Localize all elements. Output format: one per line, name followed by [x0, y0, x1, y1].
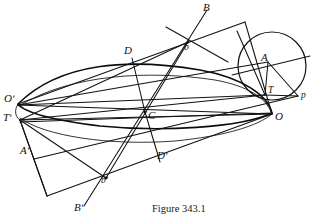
label-A-prime: Aʹ	[20, 145, 29, 156]
label-b: b	[184, 43, 189, 53]
label-B: B	[203, 2, 210, 13]
label-O-prime: Oʹ	[4, 93, 14, 104]
label-b-prime: bʹ	[101, 176, 108, 186]
leg-Tprime-corner	[20, 120, 47, 196]
label-T-prime: Tʹ	[3, 112, 11, 123]
label-D: D	[124, 45, 132, 56]
line-Tprime-bprime	[20, 120, 106, 178]
figure-container: B b D A T p O C Oʹ Tʹ Aʹ Dʹ bʹ Bʹ Figure…	[0, 0, 320, 215]
label-C: C	[148, 110, 155, 121]
center-point-C	[143, 110, 146, 113]
label-p: p	[301, 91, 306, 101]
tangent-line-top	[18, 22, 245, 104]
label-T: T	[268, 86, 273, 96]
geometric-diagram	[0, 0, 320, 215]
label-O: O	[275, 111, 283, 122]
tangent-at-b	[166, 27, 228, 62]
label-D-prime: Dʹ	[157, 150, 167, 161]
figure-caption: Figure 343.1	[152, 203, 206, 214]
label-A: A	[261, 52, 268, 63]
label-B-prime: Bʹ	[74, 202, 83, 213]
